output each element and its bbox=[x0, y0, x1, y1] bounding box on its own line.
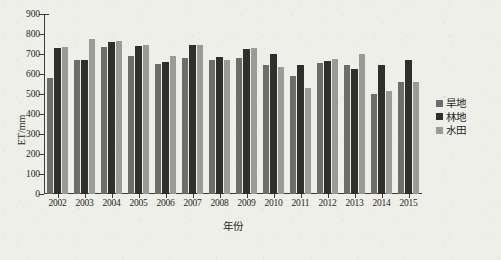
legend-item: 林地 bbox=[436, 112, 466, 123]
bar bbox=[371, 94, 377, 194]
bar bbox=[47, 78, 53, 194]
bar bbox=[386, 91, 392, 194]
bar bbox=[143, 45, 149, 194]
bar bbox=[251, 48, 257, 194]
x-axis-title: 年份 bbox=[44, 218, 422, 233]
y-tick-label: 0 bbox=[35, 189, 40, 199]
legend-item: 旱地 bbox=[436, 98, 466, 109]
x-tick-label: 2007 bbox=[183, 198, 201, 208]
y-tick-label: 200 bbox=[26, 149, 40, 159]
bar bbox=[197, 45, 203, 194]
bar-group bbox=[179, 14, 206, 194]
x-tick-label: 2003 bbox=[75, 198, 93, 208]
bar bbox=[155, 64, 161, 194]
bar bbox=[89, 39, 95, 194]
bar bbox=[344, 65, 350, 194]
bar-group bbox=[368, 14, 395, 194]
x-tick-label: 2004 bbox=[102, 198, 120, 208]
y-tick-label: 400 bbox=[26, 109, 40, 119]
bar-group bbox=[341, 14, 368, 194]
bar-group bbox=[233, 14, 260, 194]
bar bbox=[398, 82, 404, 194]
legend-label: 水田 bbox=[446, 125, 466, 136]
bar-group bbox=[314, 14, 341, 194]
x-tick-label: 2005 bbox=[129, 198, 147, 208]
bar bbox=[101, 47, 107, 194]
bar bbox=[290, 76, 296, 194]
bar-group bbox=[206, 14, 233, 194]
y-tick-label: 900 bbox=[26, 9, 40, 19]
legend-item: 水田 bbox=[436, 125, 466, 136]
bar-group bbox=[44, 14, 71, 194]
bar bbox=[324, 61, 330, 194]
bar-group bbox=[125, 14, 152, 194]
x-tick-label: 2012 bbox=[318, 198, 336, 208]
legend-label: 旱地 bbox=[446, 98, 466, 109]
bar-group bbox=[98, 14, 125, 194]
bar bbox=[74, 60, 80, 194]
bar bbox=[62, 47, 68, 194]
bar bbox=[128, 56, 134, 194]
y-tick-label: 500 bbox=[26, 89, 40, 99]
bar bbox=[332, 59, 338, 194]
bar bbox=[135, 46, 141, 194]
x-tick-label: 2006 bbox=[156, 198, 174, 208]
bar bbox=[81, 60, 87, 194]
bar bbox=[405, 60, 411, 194]
bar bbox=[182, 58, 188, 194]
x-tick-label: 2011 bbox=[292, 198, 310, 208]
y-tick-label: 700 bbox=[26, 49, 40, 59]
bar-group bbox=[287, 14, 314, 194]
bar bbox=[413, 82, 419, 194]
x-tick-label: 2013 bbox=[345, 198, 363, 208]
plot-area: 0100200300400500600700800900 20022003200… bbox=[44, 14, 422, 194]
x-tick-label: 2008 bbox=[210, 198, 228, 208]
bar bbox=[116, 41, 122, 194]
bar bbox=[236, 58, 242, 194]
x-tick-label: 2002 bbox=[48, 198, 66, 208]
legend-swatch-icon bbox=[436, 100, 443, 107]
bar bbox=[243, 49, 249, 194]
bar bbox=[278, 67, 284, 194]
bar bbox=[317, 63, 323, 194]
legend: 旱地林地水田 bbox=[436, 98, 466, 136]
legend-label: 林地 bbox=[446, 112, 466, 123]
x-tick-label: 2010 bbox=[264, 198, 282, 208]
bar bbox=[224, 60, 230, 194]
x-tick-label: 2015 bbox=[399, 198, 417, 208]
bar bbox=[108, 42, 114, 194]
bar bbox=[54, 48, 60, 194]
grouped-bar-chart: ET/mm 0100200300400500600700800900 20022… bbox=[0, 0, 501, 260]
bar bbox=[209, 60, 215, 194]
bar bbox=[305, 88, 311, 194]
x-tick-label: 2014 bbox=[372, 198, 390, 208]
y-tick-label: 800 bbox=[26, 29, 40, 39]
bar-group bbox=[71, 14, 98, 194]
bar-group bbox=[260, 14, 287, 194]
bar bbox=[263, 65, 269, 194]
bar bbox=[216, 57, 222, 194]
y-tick-label: 300 bbox=[26, 129, 40, 139]
legend-swatch-icon bbox=[436, 127, 443, 134]
bar bbox=[162, 62, 168, 194]
x-tick-label: 2009 bbox=[237, 198, 255, 208]
bar bbox=[378, 65, 384, 194]
y-tick-label: 600 bbox=[26, 69, 40, 79]
bar bbox=[359, 54, 365, 194]
bar bbox=[351, 69, 357, 194]
bar-group bbox=[395, 14, 422, 194]
bar bbox=[270, 54, 276, 194]
y-tick-label: 100 bbox=[26, 169, 40, 179]
bar bbox=[170, 56, 176, 194]
legend-swatch-icon bbox=[436, 113, 443, 120]
bar bbox=[189, 45, 195, 194]
bar bbox=[297, 65, 303, 194]
bar-group bbox=[152, 14, 179, 194]
